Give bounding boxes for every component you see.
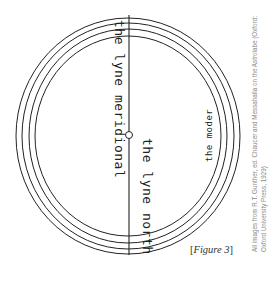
figure-caption: [Figure 3] <box>190 244 233 255</box>
astrolabe-figure: the lyne meridional the lyne north the m… <box>0 0 275 285</box>
credit-line-1: All images from R.T. Gunther, ed. Chauce… <box>250 16 259 252</box>
label-the-moder: the moder <box>204 109 214 162</box>
caption-text: Figure 3 <box>194 244 230 255</box>
label-lyne-north: the lyne north <box>140 138 155 255</box>
astrolabe-diagram <box>0 0 275 285</box>
caption-bracket-close: ] <box>230 244 234 255</box>
label-lyne-meridional: the lyne meridional <box>112 20 127 178</box>
image-credit: All images from R.T. Gunther, ed. Chauce… <box>250 16 268 252</box>
credit-line-2: Oxford University Press, 1929) <box>259 16 268 252</box>
